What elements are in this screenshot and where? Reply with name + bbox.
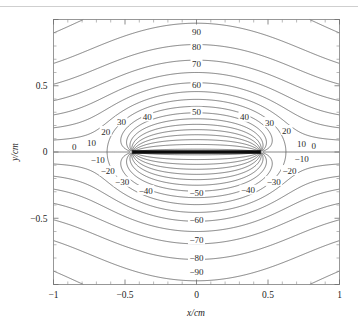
contour-line bbox=[310, 271, 340, 284]
contour-label: −90 bbox=[189, 267, 204, 277]
x-tick-label: −1 bbox=[48, 290, 58, 300]
contour-line bbox=[132, 153, 262, 180]
contour-label: 20 bbox=[101, 127, 111, 137]
contour-label: 40 bbox=[143, 112, 153, 122]
contour-label: 90 bbox=[192, 27, 202, 37]
x-tick-label: −0.5 bbox=[116, 290, 133, 300]
contour-label: 50 bbox=[192, 107, 202, 117]
contour-label: 60 bbox=[192, 80, 202, 90]
contour-label: −30 bbox=[115, 177, 130, 187]
contour-label: −50 bbox=[189, 188, 204, 198]
contour-label: −80 bbox=[189, 253, 204, 263]
contour-line bbox=[54, 20, 84, 33]
contour-label: −10 bbox=[295, 154, 310, 164]
contour-line bbox=[133, 153, 260, 165]
contour-label: 40 bbox=[240, 112, 250, 122]
y-tick-label: 0 bbox=[43, 147, 48, 157]
contour-label: 0 bbox=[312, 141, 317, 151]
contour-label: 0 bbox=[72, 142, 77, 152]
contour-label: 30 bbox=[117, 117, 127, 127]
contour-label: 20 bbox=[282, 126, 292, 136]
y-tick-label: 0.5 bbox=[36, 81, 48, 91]
y-tick-label: −0.5 bbox=[30, 214, 47, 224]
x-axis-title: x/cm bbox=[186, 308, 205, 318]
x-tick-label: 1 bbox=[337, 290, 342, 300]
contour-line bbox=[132, 130, 261, 152]
x-tick-label: 0.5 bbox=[262, 290, 274, 300]
contour-label: 80 bbox=[192, 42, 202, 52]
contour-line bbox=[132, 153, 261, 175]
contour-label: −70 bbox=[189, 235, 204, 245]
contour-label: −40 bbox=[241, 185, 256, 195]
contour-label: 70 bbox=[192, 59, 202, 69]
contour-label: 30 bbox=[265, 118, 275, 128]
contour-plot: −1−0.500.51 −0.500.5 9080706050403020100… bbox=[0, 0, 358, 330]
contour-label: −20 bbox=[101, 166, 116, 176]
contour-label: 10 bbox=[297, 139, 307, 149]
contour-label: −40 bbox=[139, 186, 154, 196]
contour-line bbox=[310, 20, 340, 33]
y-axis-tick-labels: −0.500.5 bbox=[30, 81, 47, 224]
contour-label: −10 bbox=[91, 155, 106, 165]
contour-line bbox=[133, 140, 260, 152]
contour-label: −30 bbox=[267, 177, 282, 187]
y-axis-title: y/cm bbox=[10, 143, 20, 162]
x-axis-tick-labels: −1−0.500.51 bbox=[48, 290, 342, 300]
contour-label: −20 bbox=[282, 166, 297, 176]
contour-label: −60 bbox=[189, 215, 204, 225]
figure-root: −1−0.500.51 −0.500.5 9080706050403020100… bbox=[0, 0, 358, 330]
contour-line bbox=[132, 124, 262, 151]
contour-line bbox=[54, 271, 84, 284]
x-tick-label: 0 bbox=[194, 290, 199, 300]
contour-label: 10 bbox=[87, 138, 97, 148]
